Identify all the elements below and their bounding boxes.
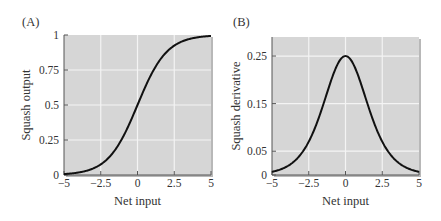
x-tick-label: −5: [266, 177, 278, 189]
panel-label: (A): [22, 15, 39, 29]
y-tick-label: 0: [53, 169, 59, 181]
x-tick-label: 0: [135, 177, 141, 189]
y-axis-title: Squash derivative: [229, 61, 243, 151]
x-tick-label: 2.5: [167, 177, 182, 189]
y-tick-label: 0.15: [247, 98, 267, 110]
y-tick-label: 1: [53, 29, 59, 41]
y-axis-title: Squash output: [19, 69, 33, 141]
x-tick-label: 0: [343, 177, 349, 189]
y-tick-label: 0: [261, 169, 267, 181]
x-tick-label: −5: [58, 177, 70, 189]
y-tick-label: 0.5: [45, 99, 60, 111]
x-tick-label: −2.5: [90, 177, 111, 189]
chart-panel-b: −5−2.502.5500.050.150.25Net inputSquash …: [229, 15, 422, 208]
x-tick-label: 2.5: [375, 177, 390, 189]
x-tick-label: 5: [208, 177, 214, 189]
x-tick-label: −2.5: [298, 177, 319, 189]
figure: −5−2.502.5500.250.50.751Net inputSquash …: [0, 0, 441, 221]
x-axis-title: Net input: [322, 194, 369, 208]
x-axis-title: Net input: [114, 194, 161, 208]
chart-panel-a: −5−2.502.5500.250.50.751Net inputSquash …: [19, 15, 214, 208]
y-tick-label: 0.75: [39, 64, 59, 76]
x-tick-label: 5: [416, 177, 422, 189]
y-tick-label: 0.25: [39, 134, 59, 146]
y-tick-label: 0.05: [247, 145, 267, 157]
y-tick-label: 0.25: [247, 50, 267, 62]
panel-label: (B): [233, 15, 250, 29]
